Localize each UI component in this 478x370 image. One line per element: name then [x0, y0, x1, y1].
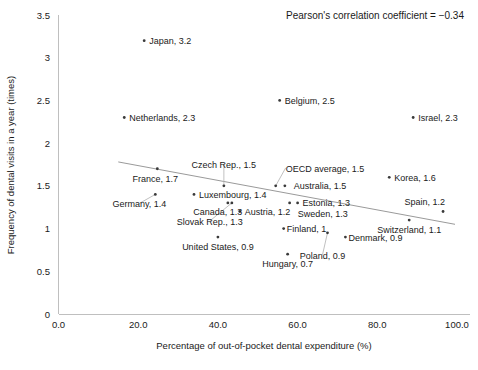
- data-point-label: Estonia, 1.3: [303, 198, 351, 208]
- axis-lines: [59, 15, 471, 315]
- data-point-label: Israel, 2.3: [418, 113, 458, 123]
- x-tick-label: 80.0: [368, 319, 387, 330]
- data-point-label: United States, 0.9: [182, 242, 254, 252]
- data-points: [123, 39, 445, 255]
- x-tick-label: 40.0: [209, 319, 228, 330]
- y-tick-label: 2: [45, 138, 50, 149]
- x-tick-labels: 0.020.040.060.080.0100.0: [52, 319, 469, 330]
- correlation-annotation: Pearson's correlation coefficient = −0.3…: [286, 10, 464, 21]
- x-axis-title: Percentage of out-of-pocket dental expen…: [156, 340, 371, 351]
- data-point: [288, 202, 291, 205]
- label-leader-line: [276, 168, 286, 186]
- y-tick-label: 1: [45, 223, 50, 234]
- data-point-label: Denmark, 0.9: [348, 233, 402, 243]
- y-axis-title: Frequency of dental visits in a year (ti…: [5, 76, 16, 254]
- y-tick-labels: 00.511.522.533.5: [37, 10, 50, 320]
- data-point-labels: Japan, 3.2Belgium, 2.5Netherlands, 2.3Is…: [112, 36, 457, 269]
- y-tick-label: 3.5: [37, 10, 50, 21]
- data-point-label: Germany, 1.4: [112, 199, 166, 209]
- x-tick-label: 100.0: [445, 319, 469, 330]
- data-point-label: Finland, 1: [287, 224, 327, 234]
- data-point-label: Spain, 1.2: [405, 197, 446, 207]
- data-point: [296, 202, 299, 205]
- y-tick-label: 2.5: [37, 95, 50, 106]
- data-point: [222, 184, 225, 187]
- data-point: [344, 236, 347, 239]
- data-point: [408, 219, 411, 222]
- y-tick-label: 1.5: [37, 180, 50, 191]
- data-point: [326, 231, 329, 234]
- data-point: [388, 176, 391, 179]
- data-point-label: Japan, 3.2: [149, 36, 191, 46]
- x-tick-label: 0.0: [52, 319, 65, 330]
- data-point-label: Belgium, 2.5: [285, 96, 335, 106]
- x-tick-label: 60.0: [288, 319, 307, 330]
- data-point-label: Czech Rep., 1.5: [192, 160, 257, 170]
- data-point-label: Sweden, 1.3: [298, 209, 348, 219]
- data-point: [226, 202, 229, 205]
- x-tick-label: 20.0: [129, 319, 148, 330]
- data-point: [123, 116, 126, 119]
- data-point: [230, 202, 233, 205]
- data-point-label: Korea, 1.6: [394, 173, 436, 183]
- data-point: [274, 184, 277, 187]
- data-point-label: Austria, 1.2: [245, 207, 291, 217]
- data-point: [193, 193, 196, 196]
- data-point: [278, 99, 281, 102]
- data-point: [283, 184, 286, 187]
- data-point-label: Slovak Rep., 1.3: [177, 217, 243, 227]
- data-point-label: France, 1.7: [133, 174, 179, 184]
- data-point: [282, 227, 285, 230]
- scatter-chart: 00.511.522.533.5 0.020.040.060.080.0100.…: [0, 0, 478, 370]
- data-point: [143, 39, 146, 42]
- data-point: [442, 210, 445, 213]
- plot-area: 00.511.522.533.5 0.020.040.060.080.0100.…: [0, 0, 478, 370]
- data-point-label: Canada, 1.3: [193, 207, 242, 217]
- data-point-label: Hungary, 0.7: [262, 259, 313, 269]
- data-point: [217, 236, 220, 239]
- data-point-label: Australia, 1.5: [294, 181, 347, 191]
- data-point: [412, 116, 415, 119]
- data-point-label: Luxembourg, 1.4: [199, 190, 267, 200]
- y-tick-label: 0: [45, 309, 50, 320]
- data-point: [156, 167, 159, 170]
- data-point-label: OECD average, 1.5: [286, 164, 365, 174]
- data-point: [154, 193, 157, 196]
- data-point: [286, 253, 289, 256]
- y-tick-label: 3: [45, 52, 50, 63]
- data-point-label: Netherlands, 2.3: [129, 113, 195, 123]
- y-tick-label: 0.5: [37, 266, 50, 277]
